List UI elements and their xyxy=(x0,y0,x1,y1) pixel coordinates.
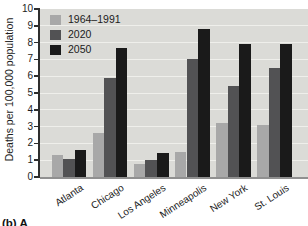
bar xyxy=(198,29,210,177)
y-axis-tick-label: 8 xyxy=(12,37,33,49)
x-axis-label: Chicago xyxy=(89,182,126,211)
legend-item: 2020 xyxy=(50,27,121,42)
y-axis-tick xyxy=(34,59,39,61)
bar xyxy=(93,133,105,177)
bar xyxy=(75,150,87,177)
y-axis-tick xyxy=(34,143,39,145)
chart-figure: 1964–199120202050 Deaths per 100,000 pop… xyxy=(0,0,308,226)
bar xyxy=(269,68,281,177)
legend-swatch xyxy=(50,15,61,25)
bar xyxy=(134,164,146,177)
legend-label: 2050 xyxy=(68,44,91,55)
y-axis-tick-label: 1 xyxy=(12,154,33,166)
bar xyxy=(187,59,199,177)
y-axis-tick-label: 3 xyxy=(12,121,33,133)
bar xyxy=(175,152,187,177)
y-axis-tick-label: 6 xyxy=(12,70,33,82)
x-axis-baseline xyxy=(40,177,308,179)
gridline xyxy=(40,25,308,26)
x-axis-label: Atlanta xyxy=(53,182,85,208)
legend-item: 2050 xyxy=(50,42,121,57)
bar xyxy=(216,123,228,177)
bar xyxy=(157,153,169,177)
y-axis-tick-label: 0 xyxy=(12,171,33,183)
bar xyxy=(257,125,269,177)
y-axis-tick-label: 2 xyxy=(12,137,33,149)
y-axis-tick-label: 10 xyxy=(12,3,33,15)
plot-area: 1964–199120202050 xyxy=(40,9,308,177)
y-axis-tick xyxy=(34,8,39,10)
y-axis-tick xyxy=(34,25,39,27)
gridline xyxy=(40,42,308,43)
bar xyxy=(239,44,251,177)
bar xyxy=(145,160,157,177)
legend-swatch xyxy=(50,30,61,40)
legend-swatch xyxy=(50,45,61,55)
y-axis-tick xyxy=(34,159,39,161)
bar xyxy=(116,48,128,177)
y-axis-tick-label: 9 xyxy=(12,20,33,32)
y-axis-tick xyxy=(34,126,39,128)
bar xyxy=(280,44,292,177)
y-axis-tick xyxy=(34,75,39,77)
y-axis-tick xyxy=(34,92,39,94)
bar xyxy=(52,155,64,177)
legend: 1964–199120202050 xyxy=(50,12,121,57)
y-axis-tick-label: 5 xyxy=(12,87,33,99)
y-axis-tick-label: 7 xyxy=(12,53,33,65)
x-axis-label: St. Louis xyxy=(252,182,291,212)
y-axis-tick-label: 4 xyxy=(12,104,33,116)
legend-label: 2020 xyxy=(68,29,91,40)
bar xyxy=(228,86,240,177)
figure-caption: (b) A xyxy=(2,217,28,226)
legend-label: 1964–1991 xyxy=(68,14,121,25)
y-axis-tick xyxy=(34,109,39,111)
y-axis-tick xyxy=(34,176,39,178)
bar xyxy=(104,78,116,177)
gridline xyxy=(40,59,308,60)
y-axis-tick xyxy=(34,42,39,44)
bar xyxy=(63,159,75,177)
x-axis-label: New York xyxy=(208,182,249,214)
